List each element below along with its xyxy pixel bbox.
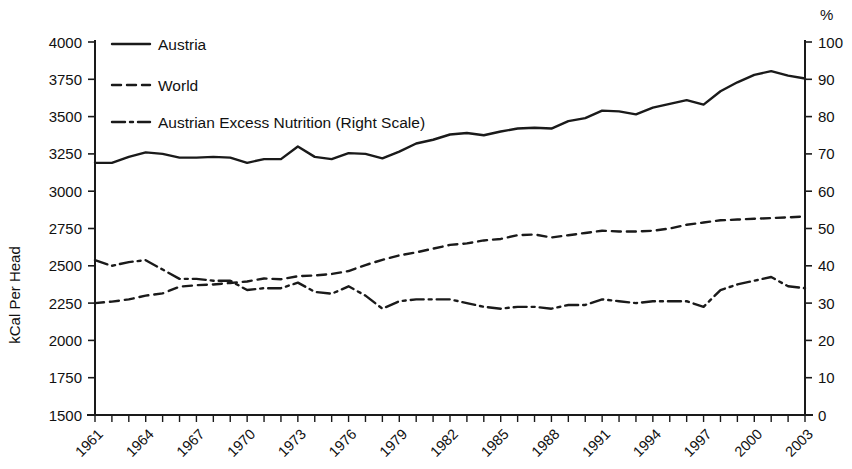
y-tick-label: 3500: [49, 108, 82, 125]
x-tick-label: 1976: [326, 426, 360, 460]
legend: AustriaWorldAustrian Excess Nutrition (R…: [112, 36, 425, 131]
y-tick-label: 2750: [49, 220, 82, 237]
y2-tick-label: 100: [818, 34, 843, 51]
y-tick-label: 1750: [49, 369, 82, 386]
x-tick-label: 1997: [681, 426, 715, 460]
y-axis-title: kCal Per Head: [6, 246, 23, 344]
y-tick-label: 2000: [49, 332, 82, 349]
y-tick-label: 2250: [49, 295, 82, 312]
chart-container: 1500175020002250250027503000325035003750…: [0, 0, 852, 469]
axis-lines: [87, 40, 813, 415]
left-axis-ticks: 1500175020002250250027503000325035003750…: [49, 34, 95, 424]
y2-tick-label: 30: [818, 295, 835, 312]
y2-tick-label: 20: [818, 332, 835, 349]
y2-tick-label: 0: [818, 407, 826, 424]
x-tick-label: 1991: [579, 426, 613, 460]
x-tick-label: 1994: [630, 426, 664, 460]
x-tick-label: 1967: [173, 426, 207, 460]
right-axis-ticks: 0102030405060708090100: [805, 34, 843, 424]
data-series-group: [95, 71, 805, 309]
legend-label-1: World: [158, 77, 198, 94]
x-tick-label: 1982: [427, 426, 461, 460]
y-tick-label: 3250: [49, 145, 82, 162]
line-chart: 1500175020002250250027503000325035003750…: [0, 0, 852, 469]
x-tick-label: 2003: [782, 426, 816, 460]
y2-tick-label: 90: [818, 71, 835, 88]
x-tick-label: 1964: [123, 426, 157, 460]
y-tick-label: 4000: [49, 34, 82, 51]
y-tick-label: 3000: [49, 183, 82, 200]
y-tick-label: 3750: [49, 71, 82, 88]
y2-tick-label: 40: [818, 257, 835, 274]
right-axis-title: %: [820, 6, 833, 23]
y-tick-label: 2500: [49, 257, 82, 274]
y2-tick-label: 50: [818, 220, 835, 237]
y2-tick-label: 70: [818, 145, 835, 162]
x-axis-ticks: 1961196419671970197319761979198219851988…: [72, 415, 816, 460]
x-tick-label: 1979: [376, 426, 410, 460]
x-tick-label: 1988: [528, 426, 562, 460]
y2-tick-label: 10: [818, 369, 835, 386]
x-tick-label: 2000: [731, 426, 765, 460]
legend-label-0: Austria: [158, 36, 207, 53]
x-tick-label: 1961: [72, 426, 106, 460]
series-line-1: [95, 217, 805, 304]
y2-tick-label: 60: [818, 183, 835, 200]
legend-label-2: Austrian Excess Nutrition (Right Scale): [158, 114, 425, 131]
x-tick-label: 1973: [275, 426, 309, 460]
x-tick-label: 1985: [478, 426, 512, 460]
x-tick-label: 1970: [224, 426, 258, 460]
y-tick-label: 1500: [49, 407, 82, 424]
y2-tick-label: 80: [818, 108, 835, 125]
